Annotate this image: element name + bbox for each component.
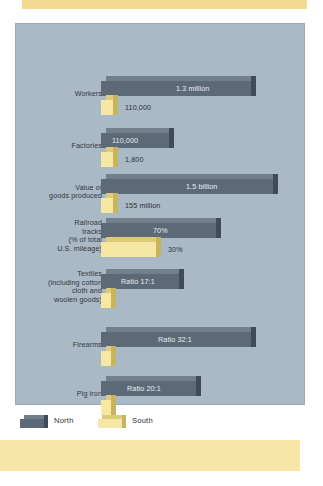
row-label: Textiles(including cottoncloth andwoolen… [24, 270, 102, 304]
chart-legend: NorthSouth [20, 412, 290, 434]
bar-value-north: 1.5 billion [186, 182, 217, 191]
row-label: Value ofgoods produced [24, 184, 102, 201]
row-label-line: Workers [24, 90, 102, 99]
bar-south [101, 95, 113, 110]
bar-south [101, 193, 113, 208]
bar-value-north: 110,000 [112, 136, 138, 145]
row-label-line: Firearms [24, 341, 102, 350]
bar-value-south: 110,000 [125, 103, 151, 112]
row-label: Factories [24, 142, 102, 151]
bar-south [101, 288, 111, 303]
bar-front-face [101, 351, 111, 366]
bar-front-face [101, 198, 113, 213]
row-label: Firearms [24, 341, 102, 350]
legend-swatch-side-face [44, 415, 48, 428]
legend-swatch-face-face [98, 419, 122, 428]
bar-value-north: Ratio 17:1 [121, 277, 155, 286]
bar-south [101, 147, 113, 162]
bottom-accent-band [0, 440, 300, 471]
bar-value-south: 30% [168, 245, 183, 254]
top-accent-band [22, 0, 307, 9]
bar-side-face [113, 95, 118, 115]
bar-value-north: 70% [153, 226, 168, 235]
legend-swatch-north [20, 415, 44, 427]
bar-side-face [196, 376, 201, 396]
bar-side-face [113, 193, 118, 213]
bar-side-face [251, 76, 256, 96]
legend-swatch-south [98, 415, 122, 427]
row-label-line: U.S. mileage) [24, 245, 102, 254]
legend-label: South [132, 416, 153, 425]
bar-side-face [169, 128, 174, 148]
row-label-line: goods produced [24, 192, 102, 201]
bar-value-north: Ratio 32:1 [158, 335, 192, 344]
row-label: Workers [24, 90, 102, 99]
bar-front-face [101, 293, 111, 308]
bar-south [101, 395, 111, 410]
legend-swatch-face-face [20, 419, 44, 428]
bar-front-face [101, 242, 156, 257]
row-label: Pig iron [24, 390, 102, 399]
bar-front-face [101, 152, 113, 167]
bar-side-face [273, 174, 278, 194]
legend-swatch-side-face [122, 415, 126, 428]
chart-panel: Workers1.3 million110,000Factories110,00… [15, 23, 305, 405]
bar-front-face [101, 100, 113, 115]
row-label-line: Factories [24, 142, 102, 151]
bar-south [101, 237, 156, 252]
bar-side-face [111, 288, 116, 308]
bar-side-face [179, 269, 184, 289]
bar-side-face [111, 346, 116, 366]
bar-value-north: 1.3 million [176, 84, 209, 93]
bar-side-face [216, 218, 221, 238]
bar-side-face [156, 237, 161, 257]
legend-label: North [54, 416, 74, 425]
row-label: Railroadtracks(% of totalU.S. mileage) [24, 219, 102, 253]
row-label-line: Pig iron [24, 390, 102, 399]
row-label-line: woolen goods) [24, 296, 102, 305]
bar-value-south: 155 million [125, 201, 160, 210]
bar-south [101, 346, 111, 361]
bar-side-face [251, 327, 256, 347]
bar-value-south: 1,800 [125, 155, 144, 164]
chart-rows: Workers1.3 million110,000Factories110,00… [16, 24, 304, 404]
bar-side-face [113, 147, 118, 167]
bar-value-north: Ratio 20:1 [127, 384, 161, 393]
